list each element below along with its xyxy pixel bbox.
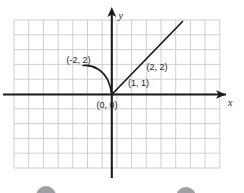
label-point-1-1: (1, 1) <box>128 78 149 88</box>
gray-blob-left-icon <box>36 186 56 193</box>
label-point-neg2-2: (-2, 2) <box>67 55 91 65</box>
smudge-artifacts <box>36 186 196 193</box>
x-axis-label: x <box>227 97 233 108</box>
graph-figure: (-2, 2) (2, 2) (1, 1) (0, 0) y x <box>0 0 244 193</box>
y-axis-label: y <box>118 10 124 21</box>
label-point-origin: (0, 0) <box>97 100 118 110</box>
coordinate-plane-svg: (-2, 2) (2, 2) (1, 1) (0, 0) y x <box>0 0 244 193</box>
label-point-2-2: (2, 2) <box>147 62 168 72</box>
gray-blob-right-icon <box>176 187 196 193</box>
